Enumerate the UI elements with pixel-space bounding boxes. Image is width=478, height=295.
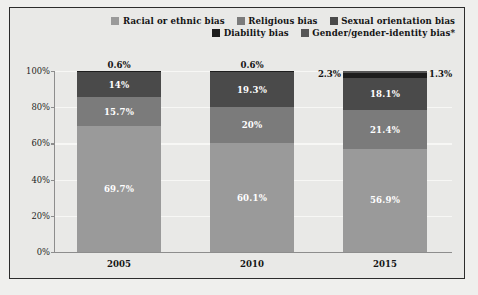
legend-label-religious: Religious bias xyxy=(248,16,317,26)
segment-2010-religious[interactable]: 20% xyxy=(210,107,294,143)
gridline-0: 0% xyxy=(55,252,452,253)
bar-2015[interactable]: 2.3% 1.3% 18.1% 21.4% 56.9% 2015 xyxy=(343,71,427,252)
legend-item-sexual-orientation-bias[interactable]: Sexual orientation bias xyxy=(330,16,455,28)
legend-swatch-gender-identity-icon xyxy=(301,29,309,37)
legend-label-gender-identity: Gender/gender-identity bias* xyxy=(312,28,455,38)
chart-frame: Racial or ethnic bias Religious bias Sex… xyxy=(9,7,465,279)
ytick-label-100: 100% xyxy=(26,66,50,76)
legend-item-racial-or-ethnic-bias[interactable]: Racial or ethnic bias xyxy=(111,16,224,28)
ytick-label-80: 80% xyxy=(31,102,50,112)
ytick-mark-20 xyxy=(51,216,55,217)
segment-2010-sexual-orientation[interactable]: 19.3% xyxy=(210,72,294,107)
callout-2010-diability: 0.6% xyxy=(210,60,294,70)
ytick-mark-0 xyxy=(51,252,55,253)
legend-swatch-religious-icon xyxy=(237,17,245,25)
segment-label-2010-sexual-orientation: 19.3% xyxy=(237,85,267,95)
segment-label-2015-religious: 21.4% xyxy=(370,125,400,135)
legend-swatch-sexual-orientation-icon xyxy=(330,17,338,25)
ytick-mark-80 xyxy=(51,107,55,108)
segment-2010-racial[interactable]: 60.1% xyxy=(210,143,294,252)
legend-label-sexual-orientation: Sexual orientation bias xyxy=(341,16,455,26)
plot-area: 100% 80% 60% 40% 20% 0% 0.6% 14% xyxy=(54,71,452,253)
segment-2015-sexual-orientation[interactable]: 18.1% xyxy=(343,78,427,111)
segment-2005-sexual-orientation[interactable]: 14% xyxy=(77,72,161,97)
bar-2010[interactable]: 0.6% 19.3% 20% 60.1% 2010 xyxy=(210,71,294,252)
ytick-mark-100 xyxy=(51,71,55,72)
xtick-label-2010: 2010 xyxy=(210,259,294,269)
ytick-mark-60 xyxy=(51,143,55,144)
xtick-label-2015: 2015 xyxy=(343,259,427,269)
callout-2015-diability: 2.3% xyxy=(318,69,341,79)
legend-row-2: Diability bias Gender/gender-identity bi… xyxy=(10,28,455,40)
xtick-label-2005: 2005 xyxy=(77,259,161,269)
segment-2005-religious[interactable]: 15.7% xyxy=(77,97,161,125)
ytick-mark-40 xyxy=(51,180,55,181)
ytick-label-60: 60% xyxy=(31,138,50,148)
segment-label-2010-religious: 20% xyxy=(242,120,263,130)
segment-label-2015-sexual-orientation: 18.1% xyxy=(370,89,400,99)
legend-row-1: Racial or ethnic bias Religious bias Sex… xyxy=(10,16,455,28)
ytick-label-20: 20% xyxy=(31,211,50,221)
segment-label-2005-religious: 15.7% xyxy=(104,107,134,117)
callout-2015-gender-identity: 1.3% xyxy=(429,69,452,79)
callout-2005-diability: 0.6% xyxy=(77,60,161,70)
segment-label-2005-sexual-orientation: 14% xyxy=(109,80,130,90)
segment-2015-religious[interactable]: 21.4% xyxy=(343,110,427,149)
legend-label-racial: Racial or ethnic bias xyxy=(123,16,225,26)
ytick-label-0: 0% xyxy=(37,247,50,257)
segment-label-2010-racial: 60.1% xyxy=(237,193,267,203)
chart-legend: Racial or ethnic bias Religious bias Sex… xyxy=(10,16,464,40)
ytick-label-40: 40% xyxy=(31,175,50,185)
segment-2005-racial[interactable]: 69.7% xyxy=(77,126,161,252)
legend-item-gender-identity-bias[interactable]: Gender/gender-identity bias* xyxy=(301,28,455,40)
segment-2015-racial[interactable]: 56.9% xyxy=(343,149,427,252)
segment-label-2005-racial: 69.7% xyxy=(104,184,134,194)
legend-item-religious-bias[interactable]: Religious bias xyxy=(237,16,318,28)
segment-label-2015-racial: 56.9% xyxy=(370,195,400,205)
bar-2005[interactable]: 0.6% 14% 15.7% 69.7% 2005 xyxy=(77,71,161,252)
legend-label-diability: Diability bias xyxy=(224,28,289,38)
legend-swatch-diability-icon xyxy=(212,29,220,37)
legend-item-diability-bias[interactable]: Diability bias xyxy=(212,28,289,40)
legend-swatch-racial-icon xyxy=(111,17,119,25)
